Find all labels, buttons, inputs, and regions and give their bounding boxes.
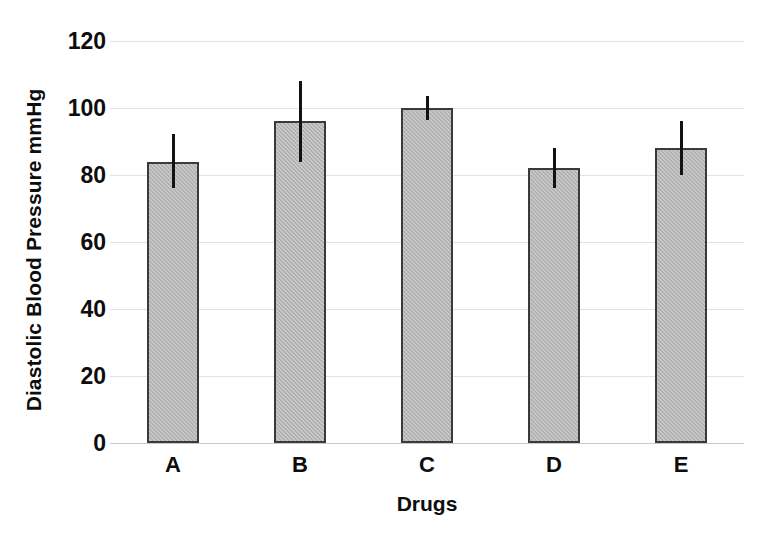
y-tick-label: 20 [48, 363, 106, 390]
error-bar-c [426, 96, 429, 120]
bar-d[interactable] [528, 168, 580, 443]
x-tick-label-a: A [165, 452, 181, 478]
bar-a[interactable] [147, 162, 199, 443]
bar-group-e [655, 41, 707, 443]
bar-e[interactable] [655, 148, 707, 443]
y-tick-label: 120 [48, 28, 106, 55]
x-axis-title: Drugs [110, 492, 744, 516]
error-bar-b [299, 81, 302, 162]
x-tick-label-c: C [419, 452, 435, 478]
y-tick-label: 80 [48, 162, 106, 189]
bar-group-b [274, 41, 326, 443]
error-bar-d [553, 148, 556, 188]
bar-group-d [528, 41, 580, 443]
y-tick-label: 100 [48, 95, 106, 122]
plot-area [110, 41, 744, 443]
x-tick-label-e: E [674, 452, 689, 478]
error-bar-a [172, 134, 175, 188]
y-tick-label: 60 [48, 229, 106, 256]
bar-b[interactable] [274, 121, 326, 443]
bar-chart-figure: Diastolic Blood Pressure mmHg 120 100 80… [0, 0, 768, 546]
x-axis-tick-labels: A B C D E [110, 452, 744, 486]
y-tick-label: 40 [48, 296, 106, 323]
error-bar-e [680, 121, 683, 175]
bar-group-c [401, 41, 453, 443]
x-tick-label-b: B [292, 452, 308, 478]
x-tick-label-d: D [546, 452, 562, 478]
y-tick-label: 0 [48, 430, 106, 457]
axis-baseline-0 [110, 443, 744, 444]
bar-c[interactable] [401, 108, 453, 443]
bar-group-a [147, 41, 199, 443]
bars-layer [110, 41, 744, 443]
y-axis-tick-labels: 120 100 80 60 40 20 0 [48, 0, 106, 546]
